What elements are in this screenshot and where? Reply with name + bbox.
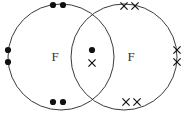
electron-cross <box>133 98 140 105</box>
shared-bonding-pair <box>88 47 95 67</box>
left-atom-circle <box>8 4 114 110</box>
electron-dot <box>5 59 11 65</box>
diagram-canvas: F F <box>0 0 185 113</box>
left-atom-label: F <box>51 49 58 64</box>
left-atom-top-pair <box>50 2 66 8</box>
right-atom-top-pair <box>120 2 138 9</box>
dot-and-cross-diagram: F F <box>0 0 185 113</box>
electron-dot <box>60 2 66 8</box>
electron-cross <box>88 59 95 66</box>
right-atom-circle <box>71 4 177 110</box>
electron-cross <box>122 98 129 105</box>
electron-dot <box>50 2 56 8</box>
left-atom-bottom-pair <box>50 99 66 105</box>
electron-dot <box>89 47 95 53</box>
electron-dot <box>50 99 56 105</box>
right-atom-bottom-pair <box>122 98 140 105</box>
electron-dot <box>5 47 11 53</box>
right-atom-label: F <box>127 49 134 64</box>
electron-dot <box>60 99 66 105</box>
electron-cross <box>120 2 127 9</box>
